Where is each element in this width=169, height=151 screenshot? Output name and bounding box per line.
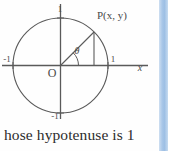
label-tick-x-negative: -1 <box>3 54 11 64</box>
label-angle-theta: θ <box>75 45 80 56</box>
label-tick-y-negative: -1 <box>51 111 59 120</box>
scrollbar-track[interactable] <box>158 0 169 151</box>
label-x-axis: x <box>137 62 143 73</box>
label-tick-y-positive: 1 <box>58 4 63 14</box>
label-tick-x-positive: 1 <box>111 54 116 64</box>
scrollbar-thumb[interactable] <box>159 0 168 151</box>
label-point-p: P(x, y) <box>97 9 127 22</box>
label-origin: O <box>48 66 57 80</box>
unit-circle-figure: x O -1 1 1 -1 P(x, y) θ <box>0 0 158 120</box>
figure-page: x O -1 1 1 -1 P(x, y) θ hose hypotenuse … <box>0 0 169 151</box>
caption-text: hose hypotenuse is 1 <box>4 125 156 147</box>
